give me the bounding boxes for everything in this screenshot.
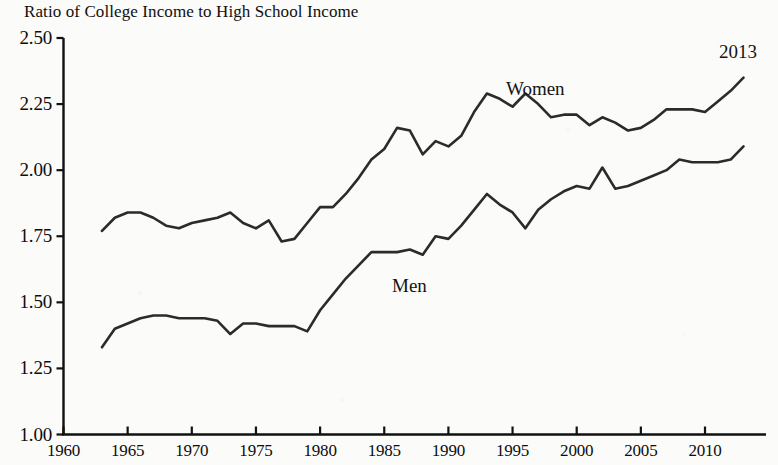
x-tick-label: 1975 — [226, 442, 286, 459]
y-tick-label: 1.25 — [0, 358, 52, 377]
figure-container: Ratio of College Income to High School I… — [0, 0, 778, 465]
y-tick-label: 2.00 — [0, 160, 52, 179]
y-tick-label: 1.50 — [0, 292, 52, 311]
x-tick-label: 1960 — [34, 442, 94, 459]
series-line-women — [102, 78, 744, 242]
x-tick-label: 2005 — [611, 442, 671, 459]
series-line-men — [102, 146, 744, 347]
y-tick-label: 2.25 — [0, 94, 52, 113]
end-year-annotation: 2013 — [719, 42, 757, 61]
data-series-group — [102, 78, 744, 348]
chart-axes — [57, 38, 767, 435]
x-tick-label: 1965 — [98, 442, 158, 459]
x-tick-label: 1995 — [483, 442, 543, 459]
y-tick-label: 1.75 — [0, 226, 52, 245]
x-tick-label: 1985 — [354, 442, 414, 459]
x-tick-label: 1970 — [162, 442, 222, 459]
x-tick-label: 1990 — [418, 442, 478, 459]
x-tick-label: 2000 — [547, 442, 607, 459]
series-label-women: Women — [506, 79, 565, 98]
line-chart-plot — [0, 0, 778, 465]
x-tick-label: 2010 — [675, 442, 735, 459]
y-tick-label: 2.50 — [0, 28, 52, 47]
x-tick-label: 1980 — [290, 442, 350, 459]
series-label-men: Men — [392, 276, 427, 295]
